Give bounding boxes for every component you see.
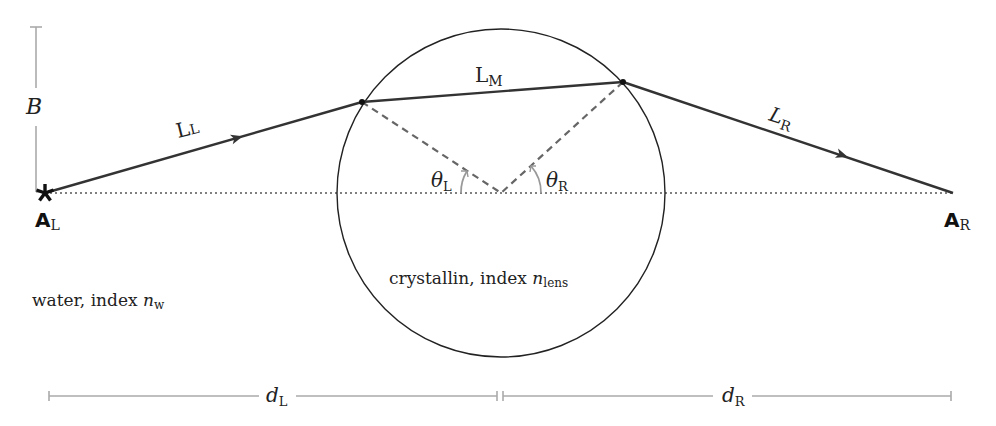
label-A-R: AR [944, 208, 970, 233]
label-L-M: LM [475, 63, 503, 89]
label-lens: crystallin, index nlens [389, 268, 568, 290]
label-theta-R: θR [546, 168, 569, 194]
height-dimension-B: B [25, 27, 44, 192]
label-theta-L: θL [431, 168, 452, 194]
label-B: B [25, 94, 42, 119]
optics-diagram: B [0, 0, 996, 426]
dimension-d-L: dL [49, 383, 497, 409]
ray-L-R [623, 82, 953, 193]
arrow-icon [230, 131, 244, 144]
label-d-R: dR [722, 383, 746, 409]
label-d-L: dL [266, 383, 288, 409]
ray-L-L [45, 102, 362, 193]
dimension-d-R: dR [503, 383, 951, 409]
entry-point [359, 99, 365, 105]
star-source-icon [37, 184, 54, 201]
label-L-L: LL [173, 114, 201, 143]
label-water: water, index nw [32, 290, 165, 312]
angle-arcs [461, 166, 541, 193]
label-A-L: AL [35, 208, 60, 233]
exit-point [620, 79, 626, 85]
